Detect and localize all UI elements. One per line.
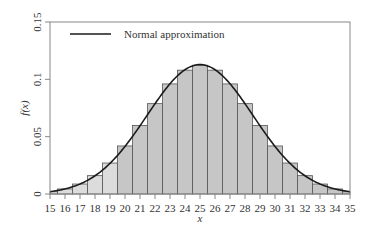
chart-container: 1516171819202122232425262728293031323334… [0, 0, 371, 233]
y-tick-label: 0.15 [31, 12, 43, 32]
legend-label: Normal approximation [124, 28, 225, 40]
x-tick-label: 16 [60, 202, 72, 214]
histogram-bar [208, 70, 223, 194]
histogram-bar [223, 84, 238, 194]
x-tick-label: 22 [150, 202, 161, 214]
y-axis-ticks: 00.050.10.15 [31, 12, 50, 197]
x-axis-ticks: 1516171819202122232425262728293031323334… [45, 194, 357, 214]
x-tick-label: 23 [165, 202, 177, 214]
y-tick-label: 0.1 [31, 72, 43, 86]
x-axis-label: x [197, 212, 203, 224]
y-tick-label: 0.05 [31, 127, 43, 147]
x-tick-label: 34 [330, 202, 342, 214]
x-tick-label: 28 [240, 202, 252, 214]
x-tick-label: 20 [120, 202, 132, 214]
y-tick-label: 0 [31, 191, 43, 197]
histogram-bar [148, 104, 163, 194]
histogram-bars [50, 65, 350, 194]
y-axis-label: f(x) [18, 100, 31, 116]
x-tick-label: 18 [90, 202, 102, 214]
x-tick-label: 26 [210, 202, 222, 214]
histogram-bar [163, 84, 178, 194]
histogram-bar [253, 125, 268, 194]
x-tick-label: 21 [135, 202, 146, 214]
histogram-bar [193, 65, 208, 194]
x-tick-label: 30 [270, 202, 282, 214]
x-tick-label: 27 [225, 202, 237, 214]
x-tick-label: 31 [285, 202, 296, 214]
legend: Normal approximation [70, 28, 225, 40]
histogram-chart: 1516171819202122232425262728293031323334… [0, 0, 371, 233]
histogram-bar [238, 104, 253, 194]
x-tick-label: 35 [345, 202, 357, 214]
x-tick-label: 24 [180, 202, 192, 214]
histogram-bar [178, 70, 193, 194]
x-tick-label: 19 [105, 202, 117, 214]
histogram-bar [133, 125, 148, 194]
x-tick-label: 17 [75, 202, 87, 214]
x-tick-label: 33 [315, 202, 327, 214]
x-tick-label: 15 [45, 202, 57, 214]
x-tick-label: 29 [255, 202, 267, 214]
x-tick-label: 32 [300, 202, 311, 214]
